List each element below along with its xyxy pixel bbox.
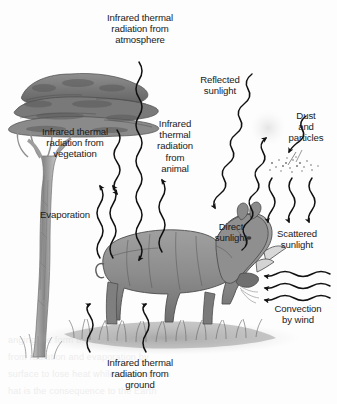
label-ir-atmosphere: Infrared thermal radiation from atmosphe… [82, 12, 198, 46]
dust-particle-cloud [269, 150, 318, 173]
arrow-evaporation-1 [97, 186, 103, 258]
energy-exchange-figure: anging the form the surface of the from … [0, 0, 337, 404]
arrow-convection-3 [265, 296, 330, 301]
arrow-scattered-2 [288, 178, 295, 222]
label-direct-sunlight: Direct sunlight [207, 221, 255, 243]
arrow-convection-2 [265, 284, 330, 289]
arrow-convection-1 [265, 272, 330, 277]
arrow-scattered-3 [308, 178, 315, 222]
rhinoceros [96, 202, 286, 324]
grass-ground [32, 319, 300, 355]
label-ir-ground: Infrared thermal radiation from ground [81, 357, 199, 391]
label-ir-vegetation: Infrared thermal radiation from vegetati… [20, 126, 130, 160]
arrow-scattered-1 [268, 178, 275, 222]
label-ir-animal: Infrared thermal radiation from animal [148, 118, 202, 174]
diagram-canvas [0, 0, 337, 404]
label-dust-and-particles: Dust and particles [280, 110, 332, 144]
label-reflected-sunlight: Reflected sunlight [190, 74, 250, 96]
label-evaporation: Evaporation [30, 209, 100, 220]
label-scattered-sunlight: Scattered sunlight [262, 228, 332, 250]
label-convection-by-wind: Convection by wind [262, 303, 334, 325]
